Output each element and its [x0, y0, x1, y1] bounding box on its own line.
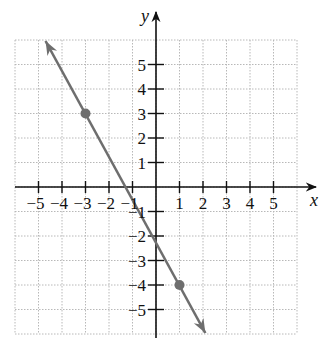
- x-tick-label: −4: [50, 194, 69, 213]
- x-tick-label: 3: [222, 194, 231, 213]
- y-tick-label: −4: [128, 276, 147, 295]
- y-tick-label: 4: [138, 80, 147, 99]
- y-tick-label: −2: [128, 227, 146, 246]
- y-tick-label: 3: [138, 105, 147, 124]
- x-tick-label: 5: [269, 194, 278, 213]
- y-tick-label: −1: [128, 203, 146, 222]
- x-tick-label: 1: [175, 194, 184, 213]
- x-tick-label: −3: [73, 194, 91, 213]
- data-point: [81, 109, 91, 119]
- y-tick-label: 5: [138, 56, 147, 75]
- x-tick-label: −2: [97, 194, 115, 213]
- axes: [15, 12, 316, 338]
- x-tick-label: 2: [199, 194, 208, 213]
- y-tick-label: 2: [138, 129, 147, 148]
- data-point: [175, 280, 185, 290]
- y-axis-label: y: [139, 6, 149, 26]
- y-tick-label: −3: [128, 252, 146, 271]
- x-tick-label: 4: [246, 194, 255, 213]
- y-tick-label: −5: [128, 301, 146, 320]
- x-axis-label: x: [309, 190, 318, 210]
- coordinate-plane: −5−4−3−2−112345−5−4−3−2−112345xy: [0, 0, 322, 338]
- y-tick-label: 1: [138, 154, 147, 173]
- x-tick-label: −5: [26, 194, 44, 213]
